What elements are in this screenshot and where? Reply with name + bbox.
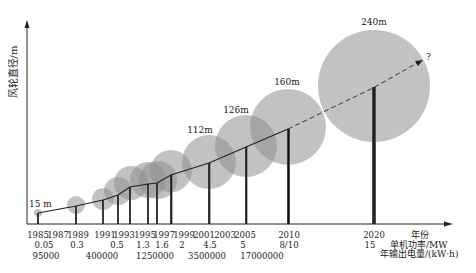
question-mark: ? [426, 52, 431, 62]
output-2001: 3500000 [188, 251, 226, 261]
power-2005: 5 [240, 240, 245, 250]
tower-2020 [372, 87, 376, 224]
x-axis-arrow-icon [444, 222, 453, 227]
output-1995: 1250000 [136, 251, 174, 261]
wind-turbine-diameter-diagram: 风轮直径/m 15 m 112m 126m 160m 240m ? 1985 1… [0, 0, 476, 273]
power-2010: 8/10 [279, 240, 298, 250]
label-126m: 126m [223, 105, 249, 115]
year-1989: 1989 [67, 230, 89, 240]
year-1997: 1997 [153, 230, 175, 240]
tower-1999 [170, 175, 173, 224]
year-1987: 1987 [47, 230, 69, 240]
power-1985: 0.05 [35, 240, 54, 250]
y-axis-arrow-icon [25, 20, 30, 28]
tower-1993 [117, 195, 119, 224]
tower-1989 [75, 206, 77, 224]
label-240m: 240m [361, 17, 387, 27]
tower-1997 [156, 183, 158, 224]
tower-1995b [147, 184, 149, 224]
x-label-output: 年输出电量/(kW·h) [380, 248, 458, 259]
y-axis-label: 风轮直径/m [7, 45, 19, 98]
year-1999: 1999 [173, 230, 195, 240]
power-2001: 4.5 [203, 240, 217, 250]
tower-2003 [245, 147, 248, 224]
tower-1995a [129, 187, 131, 224]
year-2020: 2020 [363, 230, 385, 240]
tower-2005 [287, 129, 290, 224]
year-2010: 2010 [278, 230, 300, 240]
year-2003: 2003 [214, 230, 236, 240]
label-112m: 112m [187, 125, 213, 135]
label-15m: 15 m [29, 199, 52, 209]
output-2005: 17000000 [240, 251, 283, 261]
output-1991: 400000 [86, 251, 118, 261]
power-1993: 0.5 [110, 240, 124, 250]
power-1997: 1.6 [155, 240, 169, 250]
label-160m: 160m [274, 77, 300, 87]
year-2005: 2005 [234, 230, 256, 240]
tower-1985 [37, 213, 39, 224]
power-1989: 0.3 [70, 240, 84, 250]
diagram-canvas: 风轮直径/m 15 m 112m 126m 160m 240m ? 1985 1… [0, 0, 476, 273]
output-1985: 95000 [32, 251, 59, 261]
power-1995: 1.3 [136, 240, 150, 250]
tower-2001 [208, 163, 211, 224]
year-2001: 2001 [193, 230, 215, 240]
year-row: 1985 1987 1989 1991 1993 1995 1997 1999 … [27, 229, 429, 240]
rotor-circles [34, 30, 430, 217]
year-1985: 1985 [27, 230, 49, 240]
year-1993: 1993 [113, 230, 135, 240]
tower-1991 [102, 200, 104, 224]
x-label-year: 年份 [411, 229, 429, 240]
power-1999: 2 [179, 240, 184, 250]
power-2020: 15 [365, 240, 376, 250]
